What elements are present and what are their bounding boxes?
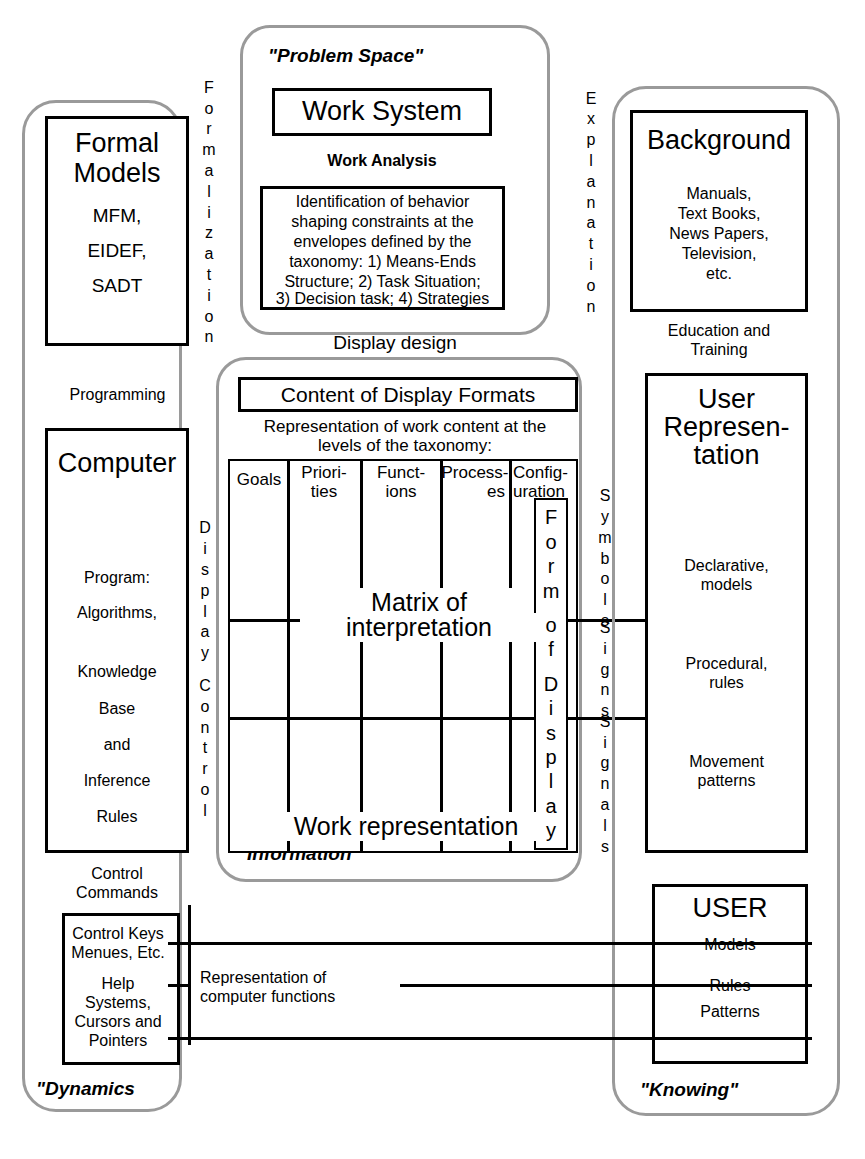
user-row-models: Models xyxy=(652,936,808,954)
formal-models-item-mfm: MFM, xyxy=(45,205,189,227)
formalization-char-3: m xyxy=(202,140,215,161)
control-commands-line2: Commands xyxy=(45,884,189,902)
explanation-char-3: l xyxy=(589,151,593,172)
user-rep-row-movement-line1: Movement xyxy=(645,753,808,771)
formal-models-title-line2: Models xyxy=(45,158,189,189)
dynamics-caption: "Dynamics xyxy=(36,1078,186,1100)
user-row-patterns: Patterns xyxy=(652,1003,808,1021)
interface-help-line4: Pointers xyxy=(56,1032,180,1050)
symbols-char-3: b xyxy=(601,549,610,570)
problem-space-caption: "Problem Space" xyxy=(268,45,508,67)
work-representation-label: Work representation xyxy=(272,812,540,841)
formalization-char-5: l xyxy=(207,182,211,203)
user-representation-title-line3: tation xyxy=(645,440,808,471)
computer-line-base: Base xyxy=(45,700,189,718)
form-of-display-char-2: r xyxy=(548,554,555,578)
display-control-label: D i s p l a y C o n t r o l xyxy=(192,495,218,845)
connector-line-bottom xyxy=(188,1037,812,1040)
display-control-char-8: C xyxy=(199,676,211,697)
signals-char-3: n xyxy=(601,774,610,795)
background-item-newspapers: News Papers, xyxy=(630,225,808,243)
form-of-display-char-6: f xyxy=(548,637,554,661)
formalization-char-10: i xyxy=(207,286,211,307)
formal-models-item-sadt: SADT xyxy=(45,275,189,297)
formal-models-title-line1: Formal xyxy=(45,128,189,159)
matrix-frame xyxy=(228,459,578,853)
connector-tick-2 xyxy=(168,984,190,987)
display-control-char-12: r xyxy=(202,759,207,780)
representation-computer-functions-line2: computer functions xyxy=(200,988,400,1006)
matrix-subtitle-line2: levels of the taxonomy: xyxy=(230,436,580,456)
matrix-col-processes-line1: Process- xyxy=(441,463,509,483)
matrix-of-interpretation-line2: interpretation xyxy=(300,613,538,642)
matrix-col-functions-line1: Funct- xyxy=(362,463,440,483)
form-of-display-char-8: D xyxy=(544,672,558,696)
display-control-char-4: l xyxy=(203,602,207,623)
formalization-char-9: t xyxy=(207,265,211,286)
user-rep-row-declarative-line1: Declarative, xyxy=(645,557,808,575)
explanation-label: E x p l a n a t i o n xyxy=(578,103,604,303)
signals-char-2: g xyxy=(601,753,610,774)
formalization-label: F o r m a l i z a t i o n xyxy=(196,100,222,326)
interface-help-line2: Systems, xyxy=(56,994,180,1012)
display-control-char-6: y xyxy=(201,643,209,664)
identification-line-2: shaping constraints at the xyxy=(260,213,505,231)
identification-line-3: envelopes defined by the xyxy=(260,233,505,251)
form-of-display-char-9: i xyxy=(549,696,553,720)
matrix-divider-4 xyxy=(509,459,512,853)
user-rep-row-procedural-line1: Procedural, xyxy=(645,655,808,673)
identification-line-6: 3) Decision task; 4) Strategies xyxy=(256,290,509,308)
matrix-divider-1 xyxy=(287,459,290,853)
background-title: Background xyxy=(630,125,808,156)
connector-line-middle xyxy=(355,984,812,987)
matrix-col-priorities-line2: ties xyxy=(289,482,359,502)
symbols-char-1: y xyxy=(601,507,609,528)
display-control-char-14: l xyxy=(203,801,207,822)
identification-line-5: Structure; 2) Task Situation; xyxy=(258,273,507,291)
signs-char-0: S xyxy=(600,618,611,639)
user-title: USER xyxy=(652,893,808,924)
explanation-char-6: a xyxy=(587,213,596,234)
explanation-char-7: t xyxy=(589,234,593,255)
signals-char-1: i xyxy=(603,733,607,754)
computer-title: Computer xyxy=(45,448,189,479)
form-of-display-char-13: a xyxy=(545,794,556,818)
connector-vertical-left xyxy=(188,905,191,1045)
display-design-label: Display design xyxy=(250,332,540,354)
explanation-char-9: o xyxy=(587,276,596,297)
explanation-char-10: n xyxy=(587,297,596,318)
display-control-char-1: i xyxy=(203,539,207,560)
form-of-display-char-10: s xyxy=(546,721,556,745)
matrix-divider-2 xyxy=(360,459,363,853)
symbols-char-0: S xyxy=(600,486,611,507)
computer-line-knowledge: Knowledge xyxy=(45,663,189,681)
display-control-char-5: a xyxy=(201,622,210,643)
user-representation-title-line2: Represen- xyxy=(645,412,808,443)
symbols-char-2: m xyxy=(598,528,611,549)
user-rep-row-procedural-line2: rules xyxy=(645,674,808,692)
display-control-char-2: s xyxy=(201,560,209,581)
control-commands-line1: Control xyxy=(45,865,189,883)
connector-tick-3 xyxy=(168,1037,190,1040)
formalization-char-11: o xyxy=(205,307,214,328)
identification-line-4: taxonomy: 1) Means-Ends xyxy=(260,253,505,271)
form-of-display-column: F o r m o f D i s p l a y xyxy=(534,498,568,850)
user-rep-row-declarative-line2: models xyxy=(645,576,808,594)
computer-line-and: and xyxy=(45,736,189,754)
form-of-display-char-11: p xyxy=(545,745,556,769)
work-system-label: Work System xyxy=(272,96,492,127)
computer-line-program: Program: xyxy=(45,569,189,587)
matrix-divider-3 xyxy=(440,459,443,853)
form-of-display-char-3: m xyxy=(543,579,560,603)
explanation-char-4: a xyxy=(587,172,596,193)
matrix-col-functions-line2: ions xyxy=(362,482,440,502)
signs-char-2: g xyxy=(601,660,610,681)
matrix-col-goals: Goals xyxy=(230,470,288,490)
interface-control-keys-line2: Menues, Etc. xyxy=(56,944,180,962)
background-item-television: Television, xyxy=(630,245,808,263)
formalization-char-1: o xyxy=(205,99,214,120)
connector-line-top xyxy=(188,942,812,945)
signals-char-4: a xyxy=(601,795,610,816)
form-of-display-char-14: y xyxy=(546,818,556,842)
knowing-caption: "Knowing" xyxy=(640,1079,810,1101)
